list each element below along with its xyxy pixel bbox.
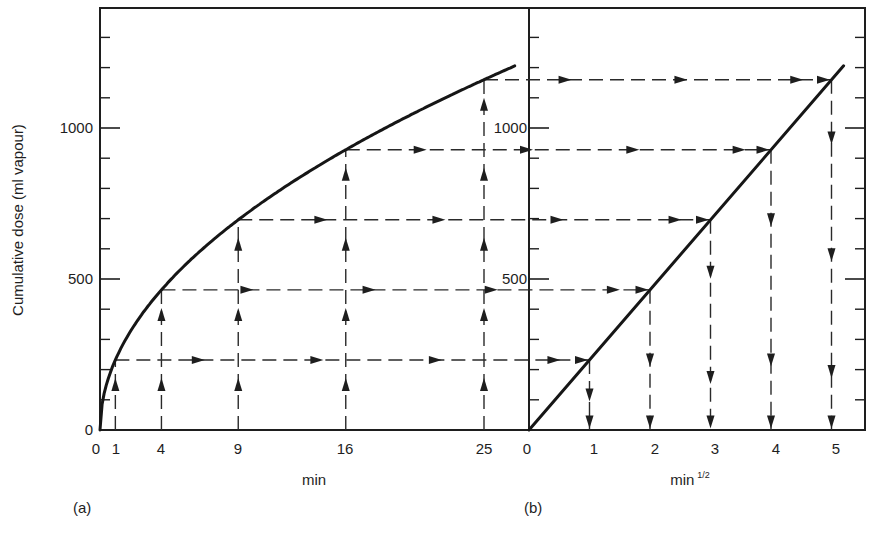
x-tick-0: 0	[92, 440, 100, 457]
arrowhead-down-icon	[767, 416, 775, 429]
x-label-base: min	[670, 471, 694, 488]
arrowhead-down-icon	[646, 353, 654, 366]
x-tick-b-3: 3	[711, 440, 719, 457]
x-tick-b-1: 1	[590, 440, 598, 457]
x-tick-b-2: 2	[651, 440, 659, 457]
panel-b-straight-line	[529, 66, 844, 430]
arrowhead-down-icon	[646, 416, 654, 429]
arrowhead-down-icon	[828, 365, 836, 378]
arrowhead-up-icon	[234, 238, 242, 251]
x-tick-4: 4	[157, 440, 165, 457]
arrowhead-right-icon	[314, 216, 327, 224]
arrowhead-up-icon	[480, 308, 488, 321]
arrowhead-down-icon	[767, 213, 775, 226]
arrowhead-up-icon	[111, 378, 119, 391]
arrowhead-down-icon	[707, 416, 715, 429]
y-tick-1000: 1000	[60, 119, 93, 136]
arrowhead-right-icon	[674, 76, 687, 84]
arrowhead-right-icon	[485, 286, 498, 294]
arrowhead-up-icon	[342, 168, 350, 181]
arrowhead-up-icon	[157, 308, 165, 321]
arrowhead-down-icon	[707, 266, 715, 279]
x-tick-1: 1	[112, 440, 120, 457]
arrowhead-right-icon	[192, 356, 205, 364]
y-axis-tick-labels: 0 500 1000 500 1000	[60, 119, 527, 438]
arrowhead-down-icon	[767, 353, 775, 366]
arrowhead-up-icon	[480, 378, 488, 391]
x-tick-b-0: 0	[523, 440, 531, 457]
panel-a-sqrt-curve	[100, 66, 515, 430]
arrowhead-right-icon	[432, 216, 445, 224]
arrowhead-up-icon	[342, 238, 350, 251]
arrowhead-right-icon	[414, 146, 427, 154]
arrowhead-right-icon	[551, 216, 564, 224]
x-tick-16: 16	[337, 440, 354, 457]
arrowhead-up-icon	[234, 378, 242, 391]
arrowhead-down-icon	[828, 132, 836, 145]
arrowhead-down-icon	[707, 371, 715, 384]
panel-b-x-axis-label: min1/2	[670, 470, 710, 488]
y-axis-label: Cumulative dose (ml vapour)	[9, 124, 26, 316]
arrowhead-up-icon	[342, 378, 350, 391]
arrowhead-up-icon	[342, 308, 350, 321]
x-tick-25: 25	[476, 440, 493, 457]
x-label-superscript: 1/2	[697, 470, 710, 480]
arrowhead-up-icon	[480, 98, 488, 111]
x-tick-b-4: 4	[772, 440, 780, 457]
arrowhead-right-icon	[733, 146, 746, 154]
arrowhead-up-icon	[234, 308, 242, 321]
panel-a-x-tick-labels: 0 1 4 9 16 25	[92, 440, 493, 457]
arrowhead-right-icon	[607, 286, 620, 294]
panel-b-x-tick-labels: 0 1 2 3 4 5	[523, 440, 840, 457]
y-tick-0: 0	[85, 421, 93, 438]
arrowhead-right-icon	[790, 76, 803, 84]
panel-b-label: (b)	[524, 499, 542, 516]
arrowhead-up-icon	[157, 378, 165, 391]
arrowhead-right-icon	[669, 216, 682, 224]
arrowhead-down-icon	[828, 248, 836, 261]
arrowhead-right-icon	[363, 286, 376, 294]
arrowhead-down-icon	[586, 416, 594, 429]
y-axis-ticks	[100, 37, 865, 399]
panel-b-y-tick-1000: 1000	[494, 119, 527, 136]
panel-b-y-tick-500: 500	[502, 270, 527, 287]
panel-a-x-axis-label: min	[302, 471, 326, 488]
y-tick-500: 500	[68, 270, 93, 287]
arrowhead-right-icon	[520, 146, 533, 154]
arrowhead-down-icon	[586, 388, 594, 401]
dose-chart-figure: 0 500 1000 500 1000 0 1 4 9 16 25 0 1 2 …	[0, 0, 874, 533]
arrowhead-up-icon	[480, 168, 488, 181]
arrowhead-up-icon	[480, 238, 488, 251]
arrowhead-right-icon	[240, 286, 253, 294]
panel-a-label: (a)	[73, 499, 91, 516]
outer-frame	[100, 8, 865, 430]
arrowhead-right-icon	[626, 146, 639, 154]
dashed-guide-lines	[111, 76, 835, 430]
plot-frame	[100, 8, 865, 430]
x-tick-b-5: 5	[832, 440, 840, 457]
arrowhead-down-icon	[828, 416, 836, 429]
arrowhead-right-icon	[547, 356, 560, 364]
arrowhead-right-icon	[310, 356, 323, 364]
arrowhead-right-icon	[559, 76, 572, 84]
arrowhead-right-icon	[429, 356, 442, 364]
x-tick-9: 9	[234, 440, 242, 457]
